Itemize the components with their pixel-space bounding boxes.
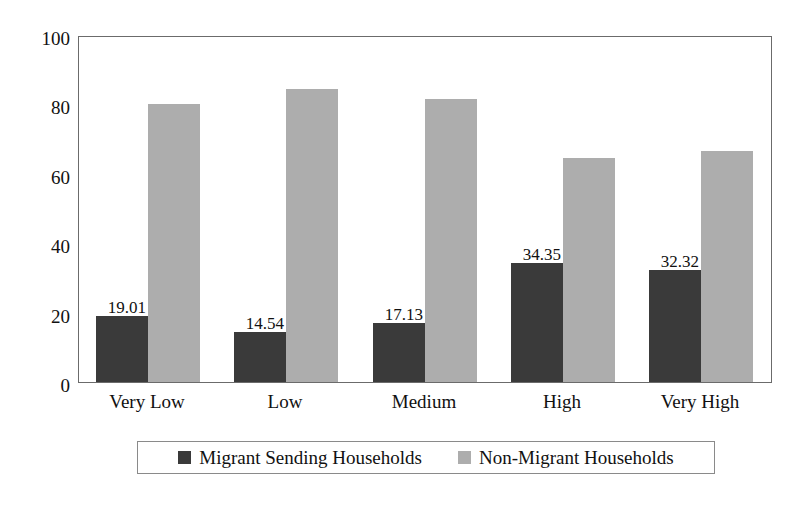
y-axis-tick-label: 80 [8,98,70,117]
bar-value-label: 32.32 [632,253,699,270]
y-axis-tick-label: 100 [8,29,70,48]
bars-layer: 19.01 14.54 17.13 34.35 32.32 [79,37,771,382]
bar-nonmigrant-very-low [148,104,200,382]
x-axis-tick-label-very-low: Very Low [95,392,199,411]
chart-legend: Migrant Sending Households Non-Migrant H… [137,441,715,474]
y-axis-tick-label: 60 [8,168,70,187]
x-axis-tick-label-low: Low [233,392,337,411]
bar-value-label: 19.01 [79,299,146,316]
legend-entry-migrant: Migrant Sending Households [178,448,422,467]
dark-square-swatch-icon [178,451,191,464]
bar-migrant-very-low [96,316,148,382]
bar-migrant-high [511,263,563,382]
x-axis-tick-label-medium: Medium [372,392,476,411]
y-axis-tick-label: 40 [8,237,70,256]
legend-entry-nonmigrant: Non-Migrant Households [458,448,674,467]
bar-migrant-medium [373,323,425,382]
x-axis-tick-label-very-high: Very High [648,392,752,411]
y-axis-tick-label: 0 [8,376,70,395]
bar-value-label: 34.35 [494,246,561,263]
bar-nonmigrant-low [286,89,338,382]
legend-label: Non-Migrant Households [479,448,674,467]
bar-nonmigrant-very-high [701,151,753,382]
bar-nonmigrant-medium [425,99,477,382]
legend-label: Migrant Sending Households [199,448,422,467]
x-axis-tick-label-high: High [510,392,614,411]
plot-area: 19.01 14.54 17.13 34.35 32.32 [78,36,772,383]
bar-value-label: 17.13 [356,306,423,323]
bar-value-label: 14.54 [217,315,284,332]
bar-migrant-very-high [649,270,701,382]
y-axis-tick-label: 20 [8,307,70,326]
bar-chart: 100 80 60 40 20 0 19.01 14.54 17.13 [0,0,812,506]
bar-migrant-low [234,332,286,382]
bar-nonmigrant-high [563,158,615,382]
gray-square-swatch-icon [458,451,471,464]
